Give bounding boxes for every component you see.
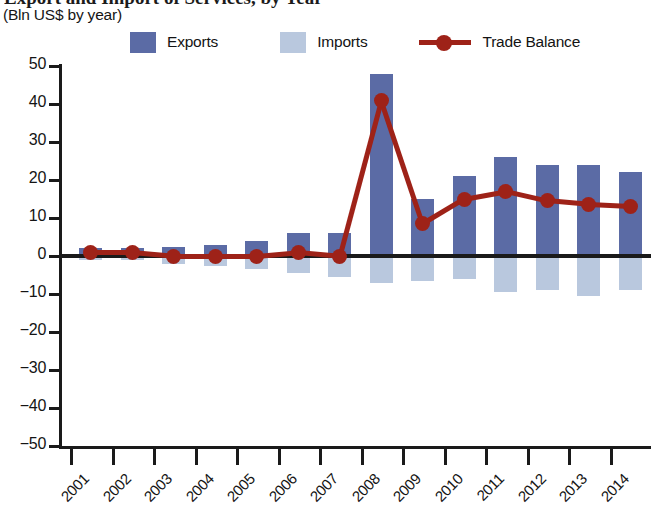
- trade-balance-point: [166, 249, 181, 264]
- trade-balance-point: [125, 245, 140, 260]
- x-axis-tick-label: 2009: [381, 470, 424, 505]
- x-axis-tick-mark: [402, 449, 405, 465]
- trade-balance-point: [208, 249, 223, 264]
- y-axis-tick-mark: [49, 369, 59, 372]
- x-axis-tick-label: 2001: [49, 470, 92, 505]
- y-axis-tick-mark: [49, 407, 59, 410]
- y-axis-tick-label: 10: [0, 207, 46, 225]
- bar-import: [411, 256, 434, 281]
- x-axis-tick-mark: [153, 449, 156, 465]
- x-axis-tick-label: 2014: [588, 470, 631, 505]
- y-axis-tick-label: −20: [0, 321, 46, 339]
- x-axis-tick-label: 2011: [464, 470, 507, 505]
- chart-figure: Export and Import of Services, by Year (…: [0, 0, 653, 505]
- bar-export: [619, 172, 642, 256]
- bar-import: [370, 256, 393, 283]
- x-axis-line: [59, 446, 651, 449]
- x-axis-tick-mark: [70, 449, 73, 465]
- y-axis-tick-label: 20: [0, 169, 46, 187]
- y-axis-tick-mark: [49, 217, 59, 220]
- trade-balance-point: [291, 245, 306, 260]
- bar-export: [453, 176, 476, 256]
- bar-export: [536, 165, 559, 256]
- x-axis-tick-mark: [610, 449, 613, 465]
- trade-balance-point: [83, 245, 98, 260]
- y-axis-tick-mark: [49, 103, 59, 106]
- y-axis-tick-mark: [49, 141, 59, 144]
- x-axis-tick-mark: [485, 449, 488, 465]
- x-axis-tick-label: 2013: [547, 470, 590, 505]
- x-axis-tick-mark: [361, 449, 364, 465]
- x-axis-tick-mark: [319, 449, 322, 465]
- bar-import: [536, 256, 559, 290]
- bar-import: [453, 256, 476, 279]
- plot-area: 50403020100−10−20−30−40−5020012002200320…: [0, 0, 653, 505]
- bar-import: [494, 256, 517, 292]
- x-axis-tick-label: 2002: [90, 470, 133, 505]
- x-axis-tick-mark: [278, 449, 281, 465]
- trade-balance-point: [623, 199, 638, 214]
- x-axis-tick-mark: [112, 449, 115, 465]
- x-axis-tick-mark: [568, 449, 571, 465]
- x-axis-tick-label: 2004: [173, 470, 216, 505]
- y-axis-tick-label: −10: [0, 283, 46, 301]
- y-axis-tick-mark: [49, 293, 59, 296]
- bar-export: [494, 157, 517, 256]
- y-axis-tick-mark: [49, 65, 59, 68]
- x-axis-tick-label: 2003: [132, 470, 175, 505]
- trade-balance-point: [374, 93, 389, 108]
- trade-balance-point: [249, 249, 264, 264]
- y-axis-tick-label: 30: [0, 131, 46, 149]
- x-axis-tick-mark: [444, 449, 447, 465]
- trade-balance-point: [457, 192, 472, 207]
- x-axis-tick-mark: [236, 449, 239, 465]
- x-axis-tick-label: 2006: [256, 470, 299, 505]
- y-axis-tick-label: 50: [0, 55, 46, 73]
- x-axis-tick-label: 2005: [215, 470, 258, 505]
- y-axis-tick-label: −50: [0, 435, 46, 453]
- x-axis-tick-mark: [527, 449, 530, 465]
- x-axis-tick-label: 2010: [422, 470, 465, 505]
- x-axis-tick-label: 2012: [505, 470, 548, 505]
- y-axis-tick-label: −30: [0, 359, 46, 377]
- y-axis-tick-mark: [49, 255, 59, 258]
- x-axis-tick-mark: [195, 449, 198, 465]
- x-axis-tick-label: 2008: [339, 470, 382, 505]
- y-axis-tick-label: 0: [0, 245, 46, 263]
- y-axis-tick-label: 40: [0, 93, 46, 111]
- x-axis-tick-label: 2007: [298, 470, 341, 505]
- trade-balance-point: [332, 249, 347, 264]
- y-axis-tick-label: −40: [0, 397, 46, 415]
- bar-import: [577, 256, 600, 296]
- bar-import: [619, 256, 642, 290]
- y-axis-tick-mark: [49, 179, 59, 182]
- y-axis-tick-mark: [49, 331, 59, 334]
- y-axis-tick-mark: [49, 445, 59, 448]
